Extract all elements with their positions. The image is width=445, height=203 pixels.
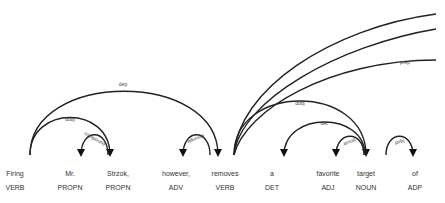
- token-list: Firing VERB Mr. PROPN Strzok, PROPN howe…: [5, 170, 422, 191]
- token-word: removes: [212, 170, 239, 177]
- arrow-head-icon: [77, 149, 85, 157]
- arrow-head-icon: [214, 149, 222, 157]
- token-tag: ADJ: [321, 184, 334, 191]
- token-tag: VERB: [5, 184, 24, 191]
- dependency-diagram: dep dobj compound advmod dobj det amod p…: [0, 0, 445, 203]
- token-word: of: [412, 170, 418, 177]
- token-tag: NOUN: [356, 184, 377, 191]
- arrow-head-icon: [409, 149, 417, 157]
- token-tag: ADV: [169, 184, 184, 191]
- arrow-head-icon: [332, 149, 340, 157]
- token-word: target: [357, 170, 375, 178]
- token-word: however,: [162, 170, 190, 177]
- arc-label-pobj: pobj: [394, 137, 405, 145]
- token-tag: PROPN: [106, 184, 131, 191]
- arc-label-dobj-1: dobj: [65, 116, 74, 122]
- token-tag: ADP: [408, 184, 423, 191]
- arrow-head-icon: [280, 149, 288, 157]
- token-tag: PROPN: [58, 184, 83, 191]
- token-tag: VERB: [215, 184, 234, 191]
- token-word: Strzok,: [107, 170, 129, 177]
- arc-label-dep: dep: [119, 81, 128, 87]
- arc-label-dobj-2: dobj: [295, 100, 304, 106]
- token-tag: DET: [265, 184, 280, 191]
- arc-label-prep: prep: [400, 59, 410, 65]
- arc-label-det: det: [321, 120, 329, 126]
- arc-prep: [234, 60, 436, 155]
- token-word: a: [270, 170, 274, 177]
- arrow-head-icon: [179, 149, 187, 157]
- token-word: Mr.: [65, 170, 75, 177]
- token-word: favorite: [317, 170, 340, 177]
- token-word: Firing: [6, 170, 24, 178]
- arc-dep: [30, 91, 218, 155]
- arc-label-advmod: advmod: [186, 132, 205, 144]
